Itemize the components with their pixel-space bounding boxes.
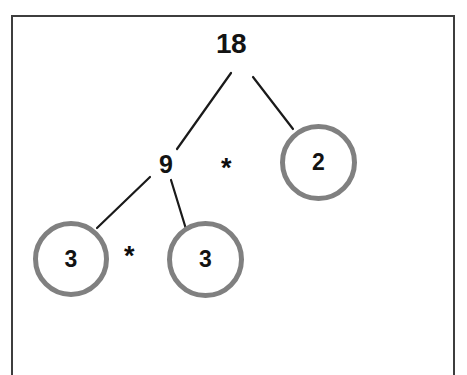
- edge-root-to-two: [253, 77, 293, 129]
- tree-node-circle-two-label: 2: [312, 151, 325, 174]
- edge-root-to-nine: [177, 73, 231, 149]
- tree-node-circle-three-left-label: 3: [65, 248, 78, 271]
- edge-nine-to-three-right: [171, 180, 186, 229]
- tree-node-circle-three-right-label: 3: [199, 248, 212, 271]
- tree-node-circle-two: 2: [280, 124, 357, 201]
- tree-node-circle-three-right: 3: [167, 221, 244, 298]
- tree-node-circle-three-left: 3: [33, 221, 109, 297]
- edge-nine-to-three-left: [97, 177, 150, 228]
- tree-node-nine: 9: [159, 152, 173, 177]
- multiplication-operator-upper: *: [221, 155, 232, 182]
- tree-node-root-18: 18: [216, 30, 246, 58]
- multiplication-operator-lower: *: [124, 243, 135, 270]
